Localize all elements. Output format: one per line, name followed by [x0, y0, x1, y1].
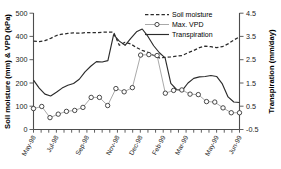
ytick-label-100: 100 [16, 102, 28, 111]
xtick-label: Mar-99 [173, 134, 189, 156]
data-point-max-vpd [130, 85, 134, 89]
y2tick-label-3_5: 3.5 [246, 32, 256, 41]
data-point-max-vpd [171, 88, 175, 92]
xtick-label: Jul-98 [45, 134, 60, 153]
y2tick-label-0_5: 0.5 [246, 102, 256, 111]
data-point-max-vpd [64, 109, 68, 113]
chart-svg: 500 400 300 200 100 0 Soil moisture (mm)… [0, 0, 281, 169]
series-transpiration-line [34, 29, 240, 103]
data-point-max-vpd [114, 86, 118, 90]
legend-label-transpiration: Transpiration [172, 31, 213, 39]
data-point-max-vpd [163, 91, 167, 95]
data-point-max-vpd [221, 106, 225, 110]
data-point-max-vpd [138, 53, 142, 57]
xtick-label: Sep-98 [74, 134, 91, 157]
chart-container: 500 400 300 200 100 0 Soil moisture (mm)… [0, 0, 281, 169]
ytick-label-0: 0 [24, 125, 28, 134]
ytick-label-300: 300 [16, 55, 28, 64]
data-point-max-vpd [89, 95, 93, 99]
ytick-label-500: 500 [16, 9, 28, 18]
data-point-max-vpd [147, 52, 151, 56]
data-point-max-vpd [229, 111, 233, 115]
data-point-max-vpd [73, 108, 77, 112]
y2tick-label-4_5: 4.5 [246, 9, 256, 18]
data-point-max-vpd [56, 112, 60, 116]
legend-swatch-max-vpd-marker [155, 22, 159, 26]
ytick-label-400: 400 [16, 32, 28, 41]
data-point-max-vpd [105, 103, 109, 107]
y2tick-label-neg0_5: -0.5 [246, 125, 258, 134]
xtick-label: Jun-99 [227, 134, 243, 155]
data-point-max-vpd [48, 115, 52, 119]
xtick-label: Nov-98 [105, 134, 121, 156]
data-point-max-vpd [196, 92, 200, 96]
legend-label-max-vpd: Max. VPD [172, 21, 204, 28]
left-axis: 500 400 300 200 100 0 Soil moisture (mm)… [3, 9, 34, 134]
left-axis-ticks [30, 13, 34, 129]
data-point-max-vpd [122, 90, 126, 94]
series-max-vpd-line [34, 55, 240, 118]
y2tick-label-1_5: 1.5 [246, 79, 256, 88]
xtick-label: May-98 [20, 134, 38, 157]
series-max-vpd-markers [31, 52, 241, 119]
data-point-max-vpd [40, 104, 44, 108]
data-point-max-vpd [188, 92, 192, 96]
data-point-max-vpd [31, 106, 35, 110]
data-point-max-vpd [155, 53, 159, 57]
data-point-max-vpd [204, 99, 208, 103]
legend-label-soil-moisture: Soil moisture [172, 11, 213, 18]
x-axis-tick-labels: May-98Jul-98Sep-98Nov-98Dec-98Feb-99Mar-… [20, 134, 243, 157]
data-point-max-vpd [180, 88, 184, 92]
y2-axis-title: Transpiration (mm/day) [267, 29, 276, 113]
plot-area [31, 29, 241, 120]
legend: Soil moisture Max. VPD Transpiration [145, 11, 213, 39]
xtick-label: May-99 [203, 134, 221, 157]
xtick-label: Feb-99 [150, 134, 166, 156]
right-axis: 4.5 3.5 2.5 1.5 0.5 -0.5 Transpiration (… [240, 9, 277, 134]
data-point-max-vpd [81, 105, 85, 109]
y-axis-title: Soil moisture (mm) & VPD (kPa) [3, 14, 12, 129]
ytick-label-200: 200 [16, 79, 28, 88]
data-point-max-vpd [213, 100, 217, 104]
y2tick-label-2_5: 2.5 [246, 55, 256, 64]
xtick-label: Dec-98 [127, 134, 143, 156]
data-point-max-vpd [237, 111, 241, 115]
data-point-max-vpd [97, 95, 101, 99]
